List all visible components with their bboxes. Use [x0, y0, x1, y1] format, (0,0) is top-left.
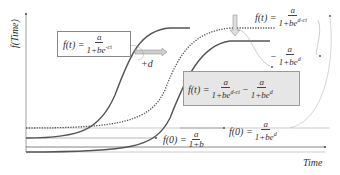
shift-down-arrow — [230, 15, 240, 36]
denominator: 1+b — [188, 140, 205, 149]
fraction: a 1+bed — [254, 120, 278, 142]
initial-shifted-formula: f(0) = a 1+bed — [229, 120, 278, 142]
numerator: a — [288, 6, 297, 16]
shifted-formula: f(t) = a 1+bed-ct — [255, 6, 308, 28]
formula-lhs: f(t) = — [188, 84, 209, 95]
fraction: a 1+bed-ct — [277, 6, 307, 28]
combined-formula: f(t) = a 1+bed-ct − a 1+bed — [188, 78, 274, 100]
fraction: a 1+b — [188, 130, 205, 149]
denominator: 1+bed — [278, 55, 302, 67]
exponent: d-ct — [231, 89, 240, 95]
fraction: a 1+be-ct — [85, 33, 112, 55]
shift-right-arrow — [135, 48, 167, 56]
den-text: 1+be — [278, 18, 297, 28]
connector-dot — [329, 15, 331, 17]
formula-lhs: f(0) = — [229, 126, 253, 137]
shift-label: +d — [141, 58, 153, 69]
fraction-2: a 1+bed — [250, 78, 274, 100]
exponent: d-ct — [298, 17, 307, 23]
den-text: 1+be — [86, 45, 105, 55]
x-axis-label: Time — [303, 157, 322, 168]
numerator: a — [257, 78, 266, 88]
connector-bracket — [316, 20, 320, 55]
arrow-dot — [155, 137, 157, 139]
numerator: a — [286, 45, 295, 55]
den-text: 1+be — [279, 57, 298, 67]
minus-sign: − — [242, 84, 249, 95]
connector-dot — [319, 55, 321, 57]
numerator: a — [261, 120, 270, 130]
exponent: -ct — [106, 44, 112, 50]
y-axis-label: f(Time) — [9, 19, 20, 48]
denominator: 1+bed-ct — [277, 16, 307, 28]
fraction: a 1+bed — [278, 45, 302, 67]
den-text: 1+be — [251, 90, 270, 100]
den-text: 1+be — [255, 132, 274, 142]
denominator: 1+bed-ct — [210, 88, 240, 100]
den-text: 1+be — [211, 90, 230, 100]
formula-minus: − — [270, 51, 277, 62]
arrow-dot — [223, 127, 225, 129]
exponent: d — [298, 56, 301, 62]
initial-base-formula: f(0) = a 1+b — [163, 130, 205, 149]
y-axis-tip — [25, 13, 27, 15]
denominator: 1+be-ct — [85, 43, 112, 55]
denominator: 1+bed — [250, 88, 274, 100]
numerator: a — [95, 33, 104, 43]
base-formula: f(t) = a 1+be-ct — [63, 33, 113, 55]
denominator: 1+bed — [254, 130, 278, 142]
exponent: d — [274, 131, 277, 137]
fraction-1: a 1+bed-ct — [210, 78, 240, 100]
connector-offset — [238, 30, 270, 66]
formula-lhs: f(t) = — [63, 39, 84, 50]
exponent: d — [270, 89, 273, 95]
offset-formula: − a 1+bed — [270, 45, 302, 67]
numerator: a — [221, 78, 230, 88]
formula-lhs: f(t) = — [255, 12, 276, 23]
x-axis-tip — [324, 146, 326, 148]
formula-lhs: f(0) = — [163, 134, 187, 145]
